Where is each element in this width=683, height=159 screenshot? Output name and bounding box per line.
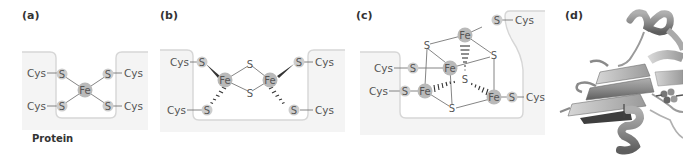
sulfur-label: S [199,57,205,68]
iron-label: Fe [219,75,230,86]
panel-a: (a) Fe S S S S Cys Cys Cys Cys Protein [22,9,148,144]
hashed-bond [472,83,489,95]
panel-b: (b) Fe [160,9,345,132]
iron-sulfur-cluster-figure: (a) Fe S S S S Cys Cys Cys Cys Protein (… [0,0,683,159]
sulfur-label: S [59,69,65,80]
hashed-bond [211,87,227,104]
sulfur-label: S [105,69,111,80]
wedge-bond [277,64,294,78]
cysteine-label: Cys [167,104,186,116]
sulfur-label: S [449,103,455,114]
iron-label: Fe [419,86,430,97]
sulfur-label: S [410,63,416,74]
sulfur-label: S [291,105,297,116]
cysteine-label: Cys [315,56,334,68]
panel-b-label: (b) [160,9,178,22]
iron-label: Fe [459,30,470,41]
panel-d-label: (d) [565,9,583,22]
protein-caption: Protein [32,133,73,144]
panel-d: (d) [560,9,683,151]
hashed-bond [269,87,285,104]
protein-ribbon-structure [560,13,683,151]
sulfur-label: S [491,50,497,61]
sulfur-label: S [247,59,253,70]
sulfur-label: S [204,105,210,116]
cysteine-label: Cys [27,100,46,112]
iron-label: Fe [79,85,90,96]
sulfur-label: S [296,57,302,68]
iron-label: Fe [444,63,455,74]
cysteine-label: Cys [124,67,143,79]
sulfur-label: S [59,101,65,112]
hashed-bond [460,46,470,70]
cysteine-label: Cys [374,62,393,74]
sulfur-label: S [402,86,408,97]
sulfur-label: S [509,92,515,103]
cysteine-label: Cys [170,56,189,68]
panel-c-label: (c) [356,9,373,22]
cysteine-label: Cys [515,14,534,26]
sulfur-label: S [462,74,468,85]
sulfur-label: S [105,101,111,112]
iron-label: Fe [488,92,499,103]
sulfur-label: S [424,40,430,51]
panel-a-label: (a) [22,9,39,22]
sulfur-label: S [494,15,500,26]
cysteine-label: Cys [526,91,545,103]
cysteine-label: Cys [124,100,143,112]
wedge-bond [206,64,220,78]
iron-label: Fe [264,75,275,86]
iron-sulfur-cluster-balls [656,89,683,104]
cysteine-label: Cys [369,85,388,97]
panel-c: (c) [356,9,545,135]
cysteine-label: Cys [315,104,334,116]
cysteine-label: Cys [27,67,46,79]
sulfur-label: S [247,88,253,99]
